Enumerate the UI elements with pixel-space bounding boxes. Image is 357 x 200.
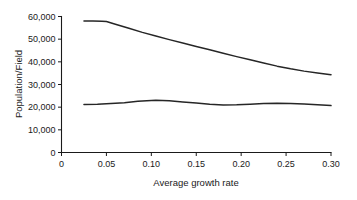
x-tick-label: 0.20: [232, 159, 250, 169]
data-series-group: [84, 21, 331, 106]
series-upper-curve: [84, 21, 331, 75]
x-axis-title: Average growth rate: [153, 177, 238, 188]
y-axis-title: Population/Field: [13, 50, 24, 118]
x-tick-label: 0.15: [187, 159, 205, 169]
x-axis-tick-labels: 00.050.100.150.200.250.30: [59, 159, 340, 169]
y-tick-label: 40,000: [28, 57, 56, 67]
series-lower-curve: [84, 100, 331, 105]
chart-figure: 010,00020,00030,00040,00050,00060,000 00…: [0, 0, 357, 200]
y-tick-label: 30,000: [28, 80, 56, 90]
x-tick-label: 0.30: [322, 159, 340, 169]
x-tick-label: 0.10: [143, 159, 161, 169]
y-tick-label: 50,000: [28, 34, 56, 44]
y-tick-label: 10,000: [28, 125, 56, 135]
y-tick-label: 20,000: [28, 102, 56, 112]
y-axis-tick-labels: 010,00020,00030,00040,00050,00060,000: [28, 12, 56, 158]
line-chart: 010,00020,00030,00040,00050,00060,000 00…: [0, 0, 357, 200]
x-tick-label: 0.05: [98, 159, 116, 169]
x-tick-label: 0.25: [277, 159, 295, 169]
y-tick-label: 0: [50, 148, 55, 158]
x-tick-label: 0: [59, 159, 64, 169]
y-tick-label: 60,000: [28, 12, 56, 22]
